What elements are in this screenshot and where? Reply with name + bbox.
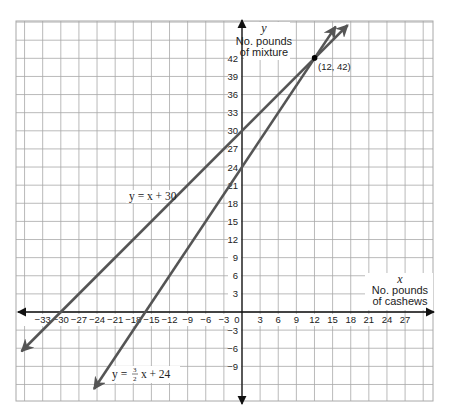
svg-text:18: 18 (227, 198, 238, 209)
svg-text:36: 36 (227, 89, 238, 100)
svg-text:−3: −3 (227, 325, 238, 336)
svg-text:18: 18 (345, 314, 356, 325)
chart-svg: −33−30−27−24−21−18−15−12−9−6−30369121518… (0, 0, 455, 419)
svg-text:−12: −12 (161, 314, 177, 325)
svg-text:3: 3 (257, 314, 262, 325)
svg-text:42: 42 (227, 53, 238, 64)
y-axis-label-line2: of mixture (240, 46, 288, 58)
svg-text:24: 24 (227, 162, 238, 173)
line1-equation-label: y = x + 30 (129, 190, 177, 203)
svg-text:6: 6 (276, 314, 281, 325)
svg-text:−27: −27 (71, 314, 87, 325)
svg-text:24: 24 (382, 314, 393, 325)
series-line-2 (94, 27, 336, 389)
svg-text:6: 6 (233, 270, 238, 281)
svg-text:x + 24: x + 24 (138, 368, 171, 380)
intersection-label: (12, 42) (318, 61, 351, 72)
data-lines (22, 25, 348, 389)
svg-text:3: 3 (133, 366, 137, 374)
svg-text:21: 21 (364, 314, 375, 325)
svg-text:2: 2 (133, 375, 137, 383)
svg-text:−30: −30 (53, 314, 69, 325)
svg-text:−6: −6 (227, 343, 238, 354)
y-axis-variable: y (260, 21, 267, 35)
tick-labels: −33−30−27−24−21−18−15−12−9−6−30369121518… (35, 53, 411, 372)
svg-text:−15: −15 (143, 314, 159, 325)
svg-text:y =: y = (112, 368, 130, 381)
svg-text:15: 15 (327, 314, 338, 325)
series-line-1 (22, 25, 348, 351)
svg-text:−21: −21 (107, 314, 123, 325)
svg-text:−9: −9 (227, 361, 238, 372)
svg-text:39: 39 (227, 71, 238, 82)
axes (18, 20, 434, 404)
svg-text:9: 9 (294, 314, 299, 325)
x-axis-label-line2: of cashews (372, 295, 428, 307)
grid-lines (16, 21, 433, 401)
svg-text:12: 12 (309, 314, 320, 325)
svg-text:−6: −6 (200, 314, 211, 325)
svg-text:15: 15 (227, 216, 238, 227)
svg-text:0: 0 (234, 314, 239, 325)
svg-text:9: 9 (233, 252, 238, 263)
svg-text:12: 12 (227, 234, 238, 245)
svg-text:−24: −24 (89, 314, 105, 325)
svg-text:3: 3 (233, 288, 238, 299)
svg-text:−9: −9 (182, 314, 193, 325)
intersection-point (312, 55, 318, 61)
svg-text:−3: −3 (218, 314, 229, 325)
svg-text:27: 27 (400, 314, 411, 325)
svg-text:33: 33 (227, 107, 238, 118)
